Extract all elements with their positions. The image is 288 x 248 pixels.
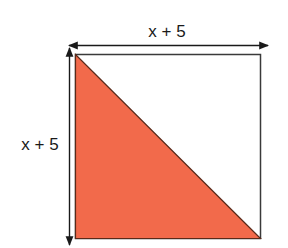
square-diagram: x + 5 x + 5 [0,0,288,248]
left-side-label: x + 5 [21,135,58,154]
top-side-label: x + 5 [148,22,185,41]
